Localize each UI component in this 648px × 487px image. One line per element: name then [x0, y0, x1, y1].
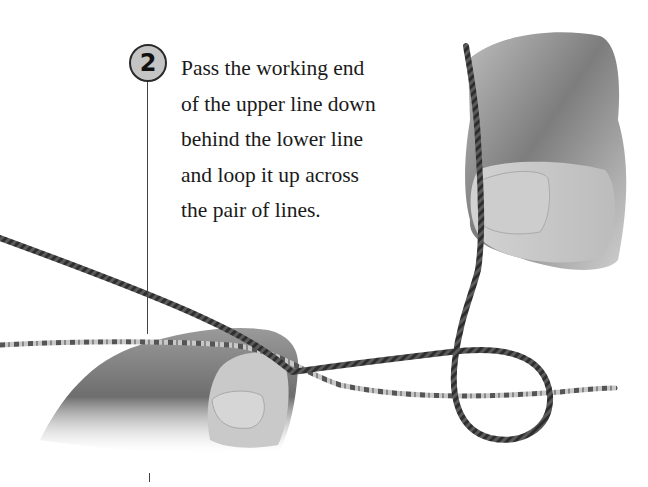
instruction-line: Pass the working end [181, 51, 441, 87]
step-instruction: Pass the working end of the upper line d… [181, 51, 441, 229]
leader-line [147, 81, 148, 334]
leader-tick [149, 473, 150, 482]
instruction-line: and loop it up across [181, 158, 441, 194]
right-hand [465, 32, 626, 270]
instruction-line: of the upper line down [181, 87, 441, 123]
step-number-badge: 2 [129, 44, 167, 82]
instruction-line: the pair of lines. [181, 193, 441, 229]
instruction-line: behind the lower line [181, 122, 441, 158]
